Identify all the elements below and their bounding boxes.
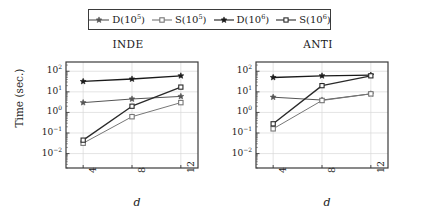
plot-canvas: [0, 0, 421, 220]
data-point-anti-3-1: [320, 84, 324, 88]
data-point-inde-2-1: [129, 76, 135, 82]
data-point-inde-1-1: [130, 115, 134, 119]
data-point-inde-2-2: [178, 73, 184, 79]
data-point-inde-0-1: [129, 96, 135, 102]
data-point-inde-3-2: [179, 85, 183, 89]
data-point-anti-2-1: [319, 73, 325, 79]
data-point-anti-2-0: [270, 74, 276, 80]
data-point-anti-3-2: [369, 74, 373, 78]
data-point-anti-1-0: [271, 127, 275, 131]
data-point-inde-2-0: [80, 78, 86, 84]
data-point-inde-1-2: [179, 100, 183, 104]
data-point-anti-3-0: [271, 122, 275, 126]
data-point-inde-3-1: [130, 104, 134, 108]
data-point-inde-0-0: [80, 100, 86, 106]
data-point-inde-0-2: [178, 93, 184, 99]
data-point-anti-0-0: [270, 94, 276, 100]
data-point-inde-3-0: [81, 138, 85, 142]
data-point-anti-1-1: [320, 98, 324, 102]
data-point-anti-1-2: [369, 92, 373, 96]
figure-root: D(105)S(105)D(106)S(106) INDE ANTI Time …: [0, 0, 421, 220]
